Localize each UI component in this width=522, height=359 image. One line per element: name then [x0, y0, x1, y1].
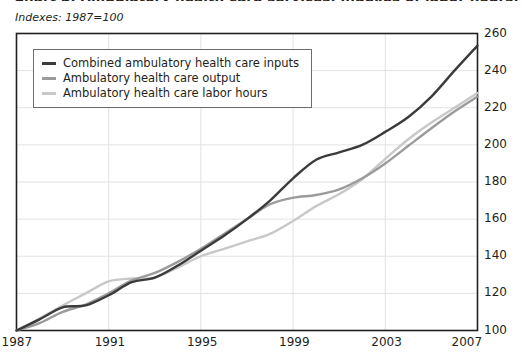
x-tick-label: 2003 — [371, 335, 402, 349]
y-tick-label: 160 — [484, 211, 507, 225]
series-line-3 — [17, 93, 478, 331]
chart-figure: Chart 3. Ambulatory health care services… — [0, 0, 522, 359]
legend-swatch-icon — [42, 77, 56, 80]
x-tick-label: 1995 — [187, 335, 218, 349]
y-tick-label: 240 — [484, 63, 507, 77]
y-tick-label: 100 — [484, 323, 507, 337]
legend-swatch-icon — [42, 62, 56, 65]
legend-label: Ambulatory health care labor hours — [63, 86, 268, 101]
series-line-2 — [17, 97, 478, 331]
legend-swatch-icon — [42, 92, 56, 95]
y-tick-label: 260 — [484, 26, 507, 40]
legend-item: Ambulatory health care output — [42, 71, 299, 86]
x-tick-label: 1991 — [95, 335, 126, 349]
chart-legend: Combined ambulatory health care inputsAm… — [33, 49, 312, 108]
y-tick-label: 180 — [484, 174, 507, 188]
y-tick-label: 120 — [484, 285, 507, 299]
y-tick-label: 220 — [484, 100, 507, 114]
x-tick-label: 2007 — [452, 335, 483, 349]
legend-item: Ambulatory health care labor hours — [42, 86, 299, 101]
y-tick-label: 200 — [484, 137, 507, 151]
legend-label: Ambulatory health care output — [63, 71, 240, 86]
legend-label: Combined ambulatory health care inputs — [63, 56, 299, 71]
x-tick-label: 1987 — [2, 335, 33, 349]
y-tick-label: 140 — [484, 248, 507, 262]
legend-item: Combined ambulatory health care inputs — [42, 56, 299, 71]
x-tick-label: 1999 — [279, 335, 310, 349]
